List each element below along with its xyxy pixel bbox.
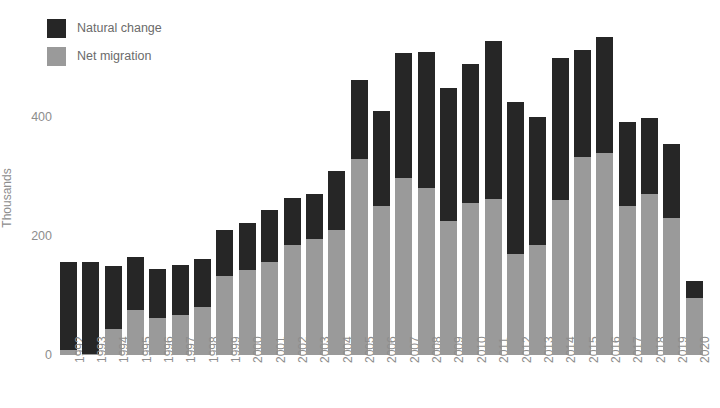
bar-2012[interactable] (507, 102, 524, 355)
bar-2010[interactable] (462, 64, 479, 355)
bar-2015[interactable] (574, 50, 591, 355)
bar-segment-natural-change (686, 281, 703, 299)
bar-segment-natural-change (663, 144, 680, 218)
bar-segment-natural-change (239, 223, 256, 270)
bar-segment-net-migration (596, 153, 613, 355)
bar-2008[interactable] (418, 52, 435, 355)
bar-segment-net-migration (552, 200, 569, 355)
bar-segment-natural-change (485, 41, 502, 199)
bar-segment-net-migration (574, 157, 591, 355)
bar-segment-natural-change (529, 117, 546, 245)
x-axis-tick-label-2020: 2020 (699, 336, 711, 363)
bar-segment-natural-change (306, 194, 323, 239)
bar-segment-natural-change (351, 80, 368, 159)
bar-segment-natural-change (641, 118, 658, 194)
bar-segment-net-migration (351, 159, 368, 355)
bar-segment-natural-change (373, 111, 390, 206)
bar-segment-natural-change (596, 37, 613, 153)
bar-segment-natural-change (127, 257, 144, 310)
bar-2003[interactable] (306, 194, 323, 355)
bar-segment-net-migration (485, 199, 502, 355)
bar-2009[interactable] (440, 88, 457, 355)
bar-2016[interactable] (596, 37, 613, 355)
bar-segment-natural-change (395, 53, 412, 178)
bar-segment-net-migration (440, 221, 457, 355)
bar-2001[interactable] (261, 210, 278, 355)
bar-segment-natural-change (328, 171, 345, 231)
stacked-bar-chart: Natural change Net migration 0200400 Tho… (0, 0, 720, 408)
bar-segment-net-migration (373, 206, 390, 355)
bar-segment-net-migration (641, 194, 658, 355)
bar-segment-net-migration (663, 218, 680, 355)
bar-2011[interactable] (485, 41, 502, 355)
plot-area: 1992199319941995199619971998199920002001… (0, 0, 720, 408)
bar-2004[interactable] (328, 171, 345, 355)
bar-2007[interactable] (395, 53, 412, 355)
bar-2002[interactable] (284, 198, 301, 355)
bar-segment-natural-change (149, 269, 166, 318)
bar-segment-natural-change (284, 198, 301, 245)
bar-2018[interactable] (641, 118, 658, 355)
bar-segment-natural-change (194, 259, 211, 308)
bar-segment-natural-change (418, 52, 435, 189)
bar-segment-natural-change (619, 122, 636, 206)
bar-segment-natural-change (574, 50, 591, 157)
bar-segment-net-migration (619, 206, 636, 355)
bar-segment-natural-change (552, 58, 569, 201)
bar-segment-net-migration (462, 203, 479, 355)
bar-segment-natural-change (216, 230, 233, 276)
bar-segment-net-migration (395, 178, 412, 355)
bar-segment-natural-change (261, 210, 278, 262)
bar-segment-natural-change (440, 88, 457, 220)
bar-2006[interactable] (373, 111, 390, 355)
bar-segment-natural-change (172, 265, 189, 314)
bar-segment-natural-change (462, 64, 479, 203)
bar-2019[interactable] (663, 144, 680, 355)
bar-2005[interactable] (351, 80, 368, 355)
bar-2014[interactable] (552, 58, 569, 356)
bar-segment-natural-change (507, 102, 524, 254)
bar-2017[interactable] (619, 122, 636, 355)
bar-2013[interactable] (529, 117, 546, 355)
bar-segment-natural-change (105, 266, 122, 328)
bar-segment-net-migration (418, 188, 435, 355)
